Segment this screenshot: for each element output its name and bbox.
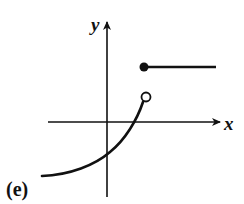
x-axis-label: x <box>223 113 234 134</box>
y-axis-label: y <box>89 14 100 35</box>
filled-dot-endpoint <box>140 63 149 72</box>
panel-label: (e) <box>6 178 28 201</box>
curve-segment <box>42 102 143 176</box>
open-circle-endpoint <box>142 93 151 102</box>
function-graph: y x (e) <box>0 0 244 204</box>
